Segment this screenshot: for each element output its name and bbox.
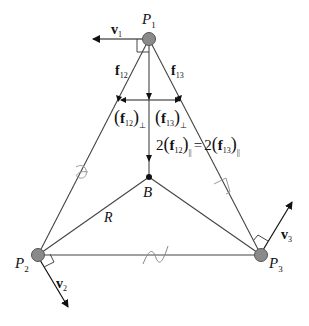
arrowhead-down-1 xyxy=(146,93,152,100)
radius-p2-b xyxy=(38,177,149,255)
right-angle-p3 xyxy=(253,235,268,241)
label-v3: v3 xyxy=(281,227,292,244)
label-f12: f12 xyxy=(115,63,128,80)
diagram-canvas: P1 P2 P3 B R v1 v2 v3 f12 f13 (f12)⊥ (f1… xyxy=(0,0,309,326)
side-p1-p2 xyxy=(38,39,149,255)
tick-mark-left xyxy=(76,166,88,179)
label-b: B xyxy=(143,184,152,200)
arrowhead-down-2 xyxy=(146,155,152,162)
label-parallel-equation: 2(f12)||=2(f13)|| xyxy=(156,134,240,157)
label-radius: R xyxy=(103,210,113,225)
right-angle-p2 xyxy=(44,254,54,267)
node-p2 xyxy=(32,249,45,262)
node-p3 xyxy=(255,249,268,262)
label-v1: v1 xyxy=(111,22,122,39)
label-p2: P2 xyxy=(14,255,29,274)
label-f13-perp: (f13)⊥ xyxy=(155,107,187,130)
radius-p3-b xyxy=(149,177,261,255)
node-b xyxy=(146,174,152,180)
label-f13: f13 xyxy=(171,63,184,80)
label-p1: P1 xyxy=(141,11,156,30)
node-p1 xyxy=(143,33,156,46)
label-v2: v2 xyxy=(56,276,67,293)
label-f12-perp: (f12)⊥ xyxy=(114,107,146,130)
label-p3: P3 xyxy=(268,255,283,274)
